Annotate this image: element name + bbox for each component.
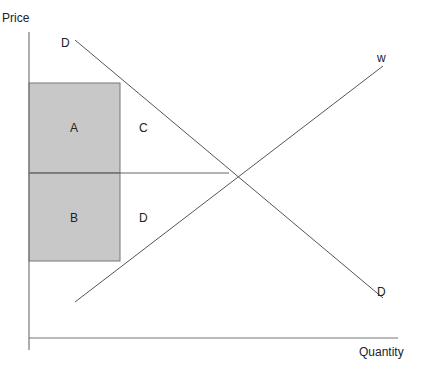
- y-axis-label: Price: [2, 12, 29, 24]
- supply-curve: [75, 66, 383, 302]
- x-axis-label: Quantity: [359, 346, 404, 358]
- region-d-label: D: [139, 212, 148, 224]
- demand-curve: [75, 40, 383, 298]
- region-c-label: C: [139, 122, 148, 134]
- region-b-label: B: [70, 212, 78, 224]
- demand-label-end: D: [377, 286, 386, 298]
- supply-label: w: [377, 52, 386, 64]
- region-a-label: A: [70, 122, 78, 134]
- demand-label-start: D: [61, 37, 70, 49]
- economics-diagram: [0, 0, 421, 377]
